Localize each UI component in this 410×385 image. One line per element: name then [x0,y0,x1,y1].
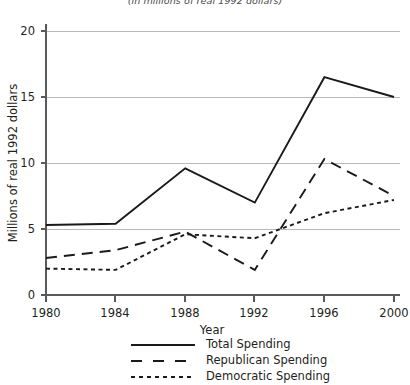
legend-label-total-spending: Total Spending [195,337,291,351]
legend-label-democratic-spending: Democratic Spending [195,369,330,383]
series-line-democratic [46,200,394,270]
y-tick-label: 20 [20,24,35,38]
y-tick-label: 5 [28,222,35,236]
x-tick-label: 1988 [170,306,199,320]
x-tick-labels: 1980 1984 1988 1992 1996 2000 [31,306,408,320]
legend-swatch-short-dash-icon [131,371,195,382]
axis-lines [46,24,400,295]
y-axis-title: Millions of real 1992 dollars [6,84,20,242]
legend-swatch-long-dash-icon [131,355,195,366]
x-axis-title: Year [199,323,225,337]
legend-label-republican-spending: Republican Spending [195,353,327,367]
chart-legend: Total Spending Republican Spending Democ… [0,336,410,384]
y-tick-label: 10 [20,156,35,170]
x-tick-label: 1996 [309,306,338,320]
series-line-total [46,77,394,225]
data-series [46,77,394,270]
plot-area: 20 15 10 5 0 1980 1984 1988 1992 1996 20… [0,0,410,340]
legend-item-republican-spending: Republican Spending [0,352,410,368]
x-tick-label: 1980 [31,306,60,320]
x-axis-ticks [46,295,394,302]
series-line-republican [46,159,394,270]
legend-item-total-spending: Total Spending [0,336,410,352]
x-tick-label: 1984 [100,306,129,320]
legend-swatch-solid-icon [131,339,195,350]
y-tick-label: 0 [28,288,35,302]
line-chart: (in millions of real 1992 dollars) [0,0,410,385]
legend-item-democratic-spending: Democratic Spending [0,368,410,384]
x-tick-label: 1992 [239,306,268,320]
y-tick-label: 15 [20,90,35,104]
gridlines [46,31,400,229]
x-tick-label: 2000 [379,306,408,320]
y-tick-labels: 20 15 10 5 0 [20,24,35,302]
